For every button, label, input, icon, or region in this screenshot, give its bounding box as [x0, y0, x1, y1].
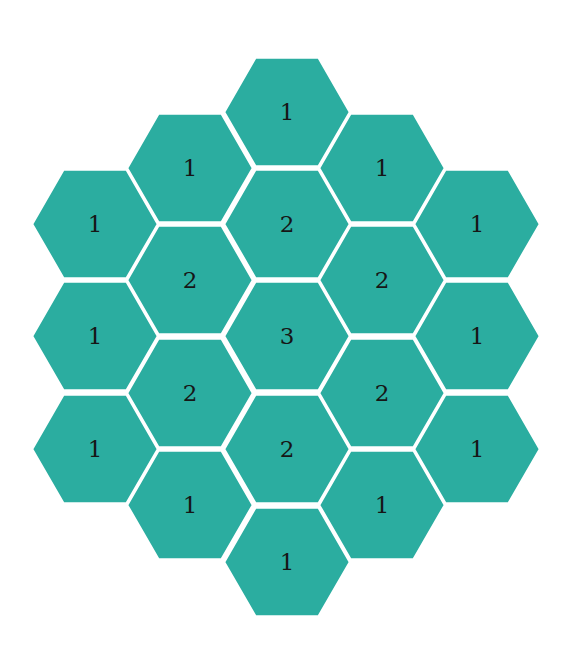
hex-value: 1 [280, 549, 295, 575]
hex-value: 2 [183, 380, 198, 406]
hex-value: 2 [280, 211, 295, 237]
hex-value: 2 [375, 267, 390, 293]
hex-value: 1 [470, 323, 485, 349]
hex-value: 1 [375, 492, 390, 518]
hex-value: 1 [375, 155, 390, 181]
hex-value: 1 [183, 492, 198, 518]
hex-value: 1 [470, 211, 485, 237]
hex-value: 2 [280, 436, 295, 462]
hex-value: 2 [375, 380, 390, 406]
hex-value: 1 [88, 436, 103, 462]
hex-board: 1111221123211221111 [0, 0, 571, 661]
hex-value: 1 [470, 436, 485, 462]
hex-value: 1 [280, 99, 295, 125]
hex-value: 2 [183, 267, 198, 293]
hex-value: 3 [280, 323, 295, 349]
hex-value: 1 [183, 155, 198, 181]
hex-value: 1 [88, 211, 103, 237]
hex-value: 1 [88, 323, 103, 349]
